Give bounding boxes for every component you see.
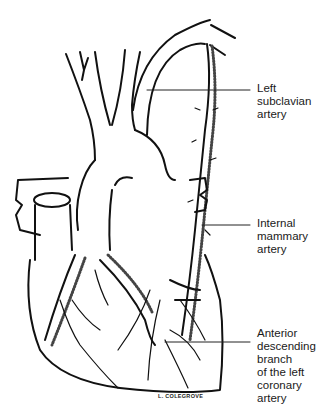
label-line: coronary — [257, 379, 316, 392]
label-line: Left — [257, 82, 311, 95]
label-line: Anterior — [257, 327, 316, 340]
label-line: Internal — [257, 217, 308, 230]
label-line: of the left — [257, 366, 316, 379]
label-line: descending — [257, 340, 316, 353]
label-internal-mammary-artery: Internal mammary artery — [257, 217, 308, 256]
heart-illustration: Left subclavian artery Internal mammary … — [0, 0, 335, 416]
label-line: branch — [257, 353, 316, 366]
label-line: artery — [257, 392, 316, 405]
label-line: artery — [257, 108, 311, 121]
label-left-subclavian-artery: Left subclavian artery — [257, 82, 311, 121]
label-anterior-descending-branch: Anterior descending branch of the left c… — [257, 327, 316, 405]
label-line: subclavian — [257, 95, 311, 108]
label-line: artery — [257, 243, 308, 256]
artist-signature: L. COLEGROVE — [158, 393, 203, 399]
label-line: mammary — [257, 230, 308, 243]
